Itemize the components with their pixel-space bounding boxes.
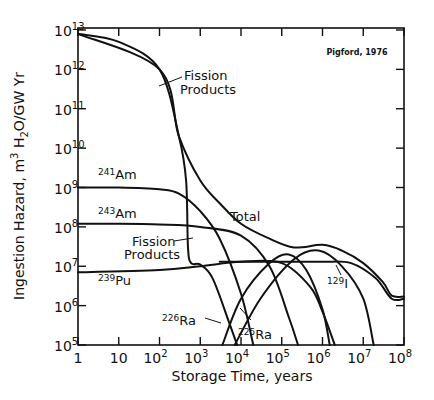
y-axis-title: Ingestion Hazard, m3 H2O/GW Yr: [9, 72, 30, 300]
y-tick-label: 107: [54, 257, 78, 275]
y-tick-label: 1011: [54, 100, 85, 118]
series-curves: [78, 34, 404, 345]
y-tick-label: 1010: [54, 139, 85, 157]
x-tick-label: 107: [347, 348, 371, 366]
x-tick-label: 108: [388, 348, 412, 366]
x-tick-label: 103: [184, 348, 208, 366]
x-tick-label: 1: [74, 350, 83, 366]
label-total: Total: [229, 209, 260, 224]
x-tick-label: 102: [143, 348, 167, 366]
chart-canvas: 1101021031041051061071081013101210111010…: [0, 0, 434, 400]
arrow-fission-products-upper: [159, 77, 182, 86]
y-tick-label: 1013: [54, 21, 85, 39]
arrow-fission-products-lower: [174, 238, 193, 241]
x-tick-label: 106: [306, 348, 330, 366]
x-tick-label: 104: [225, 348, 249, 366]
label-pu239: 239Pu: [98, 273, 131, 288]
label-am243: 243Am: [98, 206, 137, 221]
x-axis-title: Storage Time, years: [172, 368, 313, 384]
label-fission-products-lower: FissionProducts: [124, 234, 180, 262]
arrow-i129: [336, 265, 341, 275]
x-tick-label: 10: [110, 350, 128, 366]
label-am241: 241Am: [98, 167, 137, 182]
label-ra226: 226Ra: [162, 313, 196, 328]
y-tick-label: 109: [54, 179, 78, 197]
label-fission-products-upper: FissionProducts: [180, 68, 236, 97]
y-tick-label: 106: [54, 297, 78, 315]
y-tick-label: 1012: [54, 60, 85, 78]
arrow-ra226: [205, 318, 221, 323]
label-i129: 129I: [327, 276, 348, 291]
label-ra225: 225Ra: [238, 327, 272, 342]
y-tick-label: 108: [54, 218, 78, 236]
chart-credit: Pigford, 1976: [326, 48, 388, 57]
x-tick-label: 105: [266, 348, 290, 366]
